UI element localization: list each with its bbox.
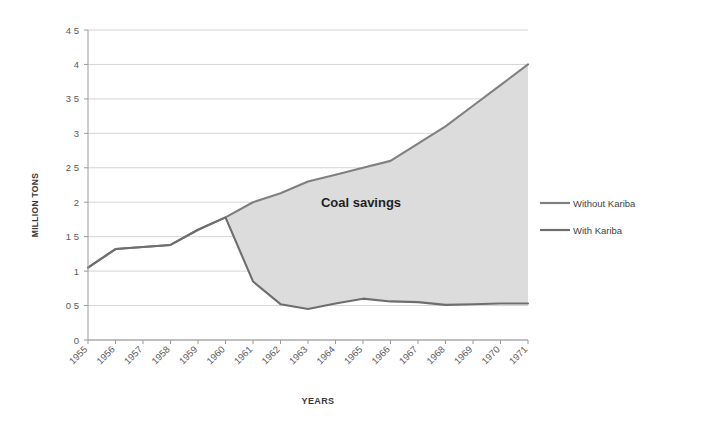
chart-container: 00 511 522 533 544 5 1955195619571958195… — [0, 0, 706, 426]
x-tick-label: 1964 — [314, 344, 337, 367]
y-tick-label: 3 — [74, 128, 79, 139]
x-tick-label: 1959 — [177, 344, 200, 367]
chart-annotations: Coal savings — [321, 195, 401, 210]
coal-savings-label: Coal savings — [321, 195, 401, 210]
x-tick-label: 1961 — [232, 344, 255, 367]
x-tick-label: 1962 — [259, 344, 282, 367]
legend-item-with-kariba[interactable]: With Kariba — [540, 225, 623, 236]
legend-label-without-kariba: Without Kariba — [573, 198, 636, 209]
x-tick-label: 1971 — [507, 344, 530, 367]
y-tick-label: 0 5 — [66, 300, 79, 311]
y-tick-label: 1 — [74, 266, 79, 277]
x-tick-label: 1958 — [149, 344, 172, 367]
y-tick-label: 1 5 — [66, 231, 79, 242]
y-tick-label: 3 5 — [66, 93, 79, 104]
x-axis-title: YEARS — [301, 396, 334, 406]
chart-legend[interactable]: Without KaribaWith Kariba — [540, 198, 636, 236]
x-tick-label: 1963 — [287, 344, 310, 367]
y-tick-label: 2 5 — [66, 162, 79, 173]
coal-savings-line-chart: 00 511 522 533 544 5 1955195619571958195… — [0, 0, 706, 426]
legend-label-with-kariba: With Kariba — [573, 225, 623, 236]
y-tick-label: 0 — [74, 335, 79, 346]
y-tick-label: 2 — [74, 197, 79, 208]
x-tick-label: 1955 — [67, 344, 90, 367]
x-tick-label: 1956 — [94, 344, 117, 367]
x-tick-label: 1965 — [342, 344, 365, 367]
y-axis-title: MILLION TONS — [30, 173, 40, 237]
coal-savings-area-polygon — [226, 64, 529, 309]
coal-savings-shaded-area — [226, 64, 529, 309]
x-tick-label: 1957 — [122, 344, 145, 367]
legend-item-without-kariba[interactable]: Without Kariba — [540, 198, 636, 209]
x-tick-label: 1968 — [424, 344, 447, 367]
y-tick-label: 4 5 — [66, 25, 79, 36]
x-tick-label: 1967 — [397, 344, 420, 367]
x-tick-label: 1960 — [204, 344, 227, 367]
x-tick-label: 1970 — [479, 344, 502, 367]
y-tick-label: 4 — [74, 59, 79, 70]
x-tick-label: 1969 — [452, 344, 475, 367]
y-axis-tick-labels: 00 511 522 533 544 5 — [66, 25, 79, 346]
x-tick-label: 1966 — [369, 344, 392, 367]
x-axis-tick-labels: 1955195619571958195919601961196219631964… — [67, 344, 530, 367]
